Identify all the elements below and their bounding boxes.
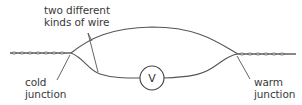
warm-junction-pointer xyxy=(237,56,250,79)
cold-junction-label: cold junction xyxy=(25,76,66,100)
wires-label-line1: two different xyxy=(44,4,110,16)
warm-junction-label: warm junction xyxy=(254,76,295,100)
voltmeter: V xyxy=(140,66,164,90)
cold-junction-label-line2: junction xyxy=(25,88,66,100)
warm-junction-label-line1: warm xyxy=(254,76,295,88)
voltmeter-symbol: V xyxy=(148,72,156,85)
right-twisted-wire xyxy=(238,53,296,55)
lower-wire-right xyxy=(164,54,238,78)
wires-label: two different kinds of wire xyxy=(44,4,110,28)
warm-junction-label-line2: junction xyxy=(254,88,295,100)
left-twisted-wire xyxy=(10,52,71,54)
lower-wire-left xyxy=(71,53,140,78)
cold-junction-label-line1: cold xyxy=(25,76,66,88)
upper-wire xyxy=(71,27,238,54)
wires-label-line2: kinds of wire xyxy=(44,16,110,28)
